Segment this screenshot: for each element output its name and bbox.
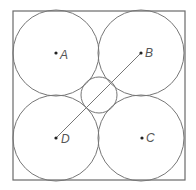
point-a [54,51,57,54]
label-d: D [61,132,70,146]
point-b [139,51,142,54]
label-b: B [145,46,153,60]
segment-db [56,53,141,138]
geometry-diagram: A B C D [0,0,196,190]
point-d [54,136,57,139]
point-c [140,136,143,139]
label-c: C [146,131,155,145]
label-a: A [59,48,68,62]
